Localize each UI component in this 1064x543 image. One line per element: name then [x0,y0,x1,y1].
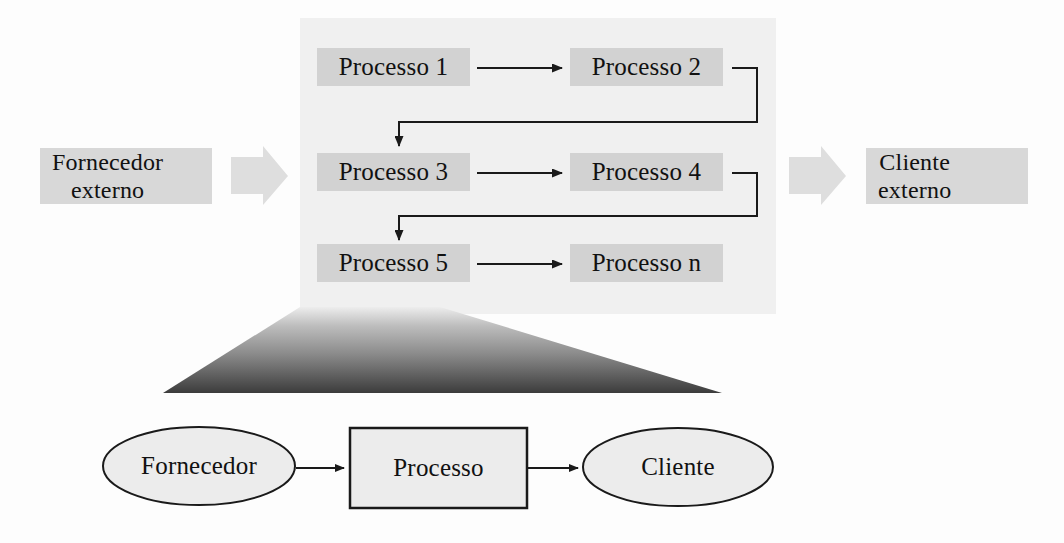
external-customer-label: Cliente externo [866,148,1028,204]
process-chip-label-5: Processo 5 [317,244,470,282]
block-arrow-right-outbound [789,146,846,205]
process-chip-label-2: Processo 2 [570,48,723,86]
block-arrow-right-inbound [231,146,288,205]
process-chip-label-1: Processo 1 [317,48,470,86]
diagram-canvas: Fornecedor externo Cliente externo Proce… [0,0,1064,543]
oval-cliente-label: Cliente [583,448,773,486]
gradient-triangle [163,307,722,393]
external-supplier-label: Fornecedor externo [40,148,212,204]
process-chip-label-4: Processo 4 [570,153,723,191]
oval-fornecedor-label: Fornecedor [103,447,295,485]
process-chip-label-3: Processo 3 [317,153,470,191]
process-chip-label-n: Processo n [570,244,723,282]
rect-processo-label: Processo [350,449,527,487]
